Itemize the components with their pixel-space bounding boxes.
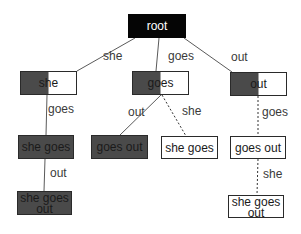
edge-label: goes (48, 102, 74, 116)
node-label: goes out (235, 141, 282, 155)
node-label: root (147, 19, 168, 33)
node-she_goes_white: she goes (161, 136, 218, 159)
edge-label: goes (168, 49, 194, 63)
node-label: she goes (165, 141, 214, 155)
edge-label: out (50, 166, 67, 180)
node-goes_out_white: goes out (230, 136, 286, 159)
edge-label: out (231, 50, 248, 64)
node-label: goes out (96, 140, 143, 154)
node-she_goes_out_white: she goesout (228, 195, 284, 220)
edge-label: she (182, 104, 202, 118)
node-she_goes_out_dark: she goesout (17, 191, 72, 216)
node-label: out (250, 77, 267, 91)
node-out: out (230, 72, 287, 96)
edge-label: she (263, 167, 283, 181)
node-root: root (128, 14, 186, 38)
edge-label: goes (262, 105, 288, 119)
node-label: she (39, 76, 59, 90)
node-she_goes: she goes (18, 135, 74, 159)
node-label-line: out (248, 206, 265, 220)
tree-diagram: shegoesoutgoesoutshegoesoutshe rootshego… (0, 0, 301, 234)
edge-label: she (103, 49, 123, 63)
node-label: she goes (22, 140, 71, 154)
node-goes_out_dark: goes out (91, 135, 148, 159)
node-label: goes (147, 76, 173, 90)
node-goes: goes (132, 71, 189, 95)
edge-label: out (128, 105, 145, 119)
node-label-line: out (36, 202, 53, 216)
node-she: she (20, 71, 77, 95)
